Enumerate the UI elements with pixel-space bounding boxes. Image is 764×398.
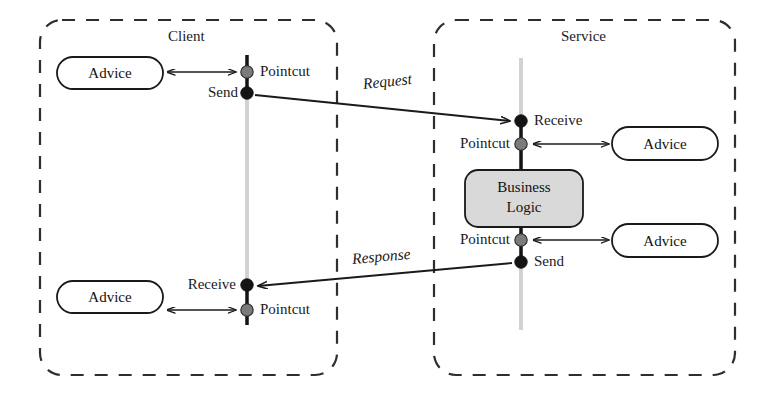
advice-client-receive-label: Advice (57, 289, 163, 305)
client-pointcut-send-dot (241, 66, 253, 78)
advice-service-send-label: Advice (612, 233, 718, 249)
label-service-receive: Receive (534, 113, 582, 128)
container-label-client: Client (168, 29, 205, 44)
label-service-pointcut-receive: Pointcut (460, 136, 510, 151)
client-send-dot (241, 87, 253, 99)
business-logic-label-line1: Business (465, 179, 583, 195)
service-receive-dot (515, 115, 527, 127)
business-logic-label-line2: Logic (465, 199, 583, 215)
label-client-pointcut-receive: Pointcut (260, 302, 310, 317)
aop-web-service-diagram: Client Service Advice Advice Advice Advi… (0, 0, 764, 398)
service-pointcut-receive-dot (515, 138, 527, 150)
diagram-vector-layer (0, 0, 764, 398)
service-send-dot (515, 256, 527, 268)
container-label-service: Service (561, 29, 606, 44)
service-pointcut-send-dot (515, 234, 527, 246)
label-client-receive: Receive (188, 277, 236, 292)
label-client-pointcut-send: Pointcut (260, 64, 310, 79)
label-service-send: Send (534, 254, 564, 269)
advice-client-send-label: Advice (57, 65, 163, 81)
request-arrow (255, 95, 510, 121)
client-receive-dot (241, 279, 253, 291)
response-arrow (258, 263, 512, 286)
advice-service-receive-label: Advice (612, 136, 718, 152)
client-pointcut-receive-dot (241, 304, 253, 316)
label-service-pointcut-send: Pointcut (460, 232, 510, 247)
label-client-send: Send (208, 85, 238, 100)
